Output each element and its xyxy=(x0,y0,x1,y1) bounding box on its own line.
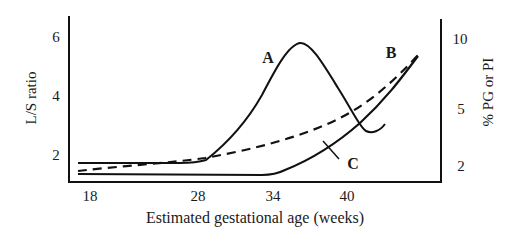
x-tick-34: 34 xyxy=(266,188,282,204)
y-left-tick-4: 4 xyxy=(52,88,60,104)
series-b-line xyxy=(78,54,419,171)
x-tick-18: 18 xyxy=(83,188,98,204)
y-left-tick-2: 2 xyxy=(52,147,60,163)
x-axis-label: Estimated gestational age (weeks) xyxy=(146,209,364,227)
y-right-tick-2: 2 xyxy=(457,158,465,174)
y-right-tick-5: 5 xyxy=(457,101,465,117)
series-a-label: A xyxy=(262,49,274,66)
chart: 6 4 2 L/S ratio 10 5 2 % PG or PI 18 28 … xyxy=(0,0,520,236)
series-c-label: C xyxy=(347,155,359,172)
series-a-line xyxy=(78,43,385,163)
x-tick-40: 40 xyxy=(340,188,355,204)
y-left-label: L/S ratio xyxy=(23,72,39,125)
y-right-tick-10: 10 xyxy=(453,31,468,47)
x-tick-28: 28 xyxy=(191,188,206,204)
y-left-tick-6: 6 xyxy=(52,29,60,45)
y-right-label: % PG or PI xyxy=(480,58,496,127)
series-b-label: B xyxy=(386,44,397,61)
chart-svg: 6 4 2 L/S ratio 10 5 2 % PG or PI 18 28 … xyxy=(0,0,520,236)
